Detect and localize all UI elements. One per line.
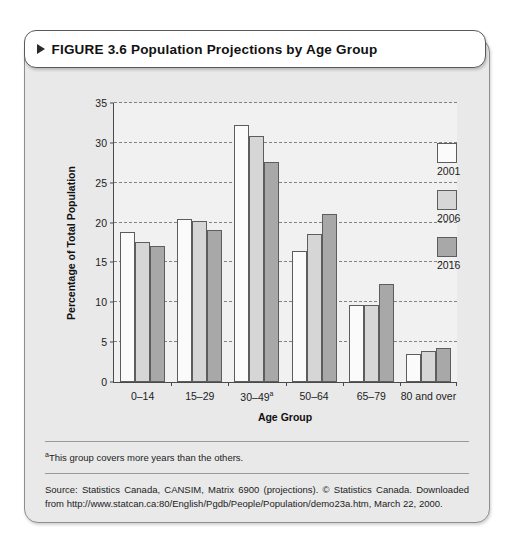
bar-group: 15–29 xyxy=(171,103,228,382)
y-axis-tick-label: 5 xyxy=(101,336,107,348)
footnote: aThis group covers more years than the o… xyxy=(45,451,469,463)
y-axis-tick-label: 0 xyxy=(101,376,107,388)
x-axis-tick-label: 0–14 xyxy=(131,390,154,402)
chart-legend: 200120062016 xyxy=(437,143,497,284)
x-axis-tick-mark xyxy=(343,382,344,386)
bar-2001-80-and-over[interactable] xyxy=(406,354,421,382)
bar-2001-50–64[interactable] xyxy=(292,251,307,382)
legend-swatch xyxy=(437,143,457,163)
plot-frame: 05101520253035 0–1415–2930–49a50–6465–79… xyxy=(113,103,457,383)
legend-item-2001[interactable]: 2001 xyxy=(437,143,497,177)
bar-group: 65–79 xyxy=(343,103,400,382)
bar-2001-15–29[interactable] xyxy=(177,219,192,382)
y-axis-tick-label: 20 xyxy=(95,217,107,229)
y-axis-tick-label: 25 xyxy=(95,177,107,189)
bar-2016-50–64[interactable] xyxy=(322,214,337,382)
source-divider xyxy=(45,473,469,474)
x-axis-tick-label: 30–49a xyxy=(240,390,273,403)
bar-2006-30–49[interactable] xyxy=(249,136,264,382)
bar-2016-65–79[interactable] xyxy=(379,284,394,382)
legend-label: 2001 xyxy=(437,165,497,177)
bar-2016-0–14[interactable] xyxy=(150,246,165,382)
legend-swatch xyxy=(437,237,457,257)
x-axis-tick-mark xyxy=(228,382,229,386)
bar-2001-65–79[interactable] xyxy=(349,305,364,382)
plot-area: 05101520253035 0–1415–2930–49a50–6465–79… xyxy=(113,103,457,383)
x-axis-tick-label: 15–29 xyxy=(185,390,214,402)
x-axis-tick-mark xyxy=(400,382,401,386)
bar-group: 30–49a xyxy=(228,103,285,382)
x-axis-tick-label: 50–64 xyxy=(299,390,328,402)
figure-notes: aThis group covers more years than the o… xyxy=(45,441,469,511)
legend-item-2016[interactable]: 2016 xyxy=(437,237,497,271)
note-divider xyxy=(45,441,469,442)
source-text: Source: Statistics Canada, CANSIM, Matri… xyxy=(45,483,469,511)
bar-2016-30–49[interactable] xyxy=(264,162,279,382)
y-axis-tick-label: 30 xyxy=(95,137,107,149)
x-axis-tick-mark xyxy=(286,382,287,386)
y-axis-tick-label: 35 xyxy=(95,97,107,109)
chart-area: Percentage of Total Population 051015202… xyxy=(25,81,489,441)
figure-title-band: FIGURE 3.6 Population Projections by Age… xyxy=(24,30,486,68)
x-axis-tick-footnote-marker: a xyxy=(270,390,274,397)
x-axis-tick-label: 80 and over xyxy=(401,390,456,402)
y-axis-tick-label: 15 xyxy=(95,256,107,268)
x-axis-label: Age Group xyxy=(113,411,457,423)
bar-2006-0–14[interactable] xyxy=(135,242,150,382)
y-axis-tick-label: 10 xyxy=(95,296,107,308)
bar-2006-80-and-over[interactable] xyxy=(421,351,436,382)
bar-2006-65–79[interactable] xyxy=(364,305,379,382)
legend-swatch xyxy=(437,190,457,210)
page-title: FIGURE 3.6 Population Projections by Age… xyxy=(52,42,378,57)
triangle-right-icon xyxy=(37,44,45,54)
y-axis-label: Percentage of Total Population xyxy=(63,103,79,383)
y-axis-label-text: Percentage of Total Population xyxy=(65,166,77,320)
bar-2001-0–14[interactable] xyxy=(120,232,135,382)
bar-2006-15–29[interactable] xyxy=(192,221,207,382)
x-axis-tick-label: 65–79 xyxy=(357,390,386,402)
bar-2006-50–64[interactable] xyxy=(307,234,322,382)
bar-2016-15–29[interactable] xyxy=(207,230,222,382)
bar-2016-80-and-over[interactable] xyxy=(436,348,451,382)
legend-label: 2006 xyxy=(437,212,497,224)
bars-layer: 0–1415–2930–49a50–6465–7980 and over xyxy=(114,103,457,382)
bar-2001-30–49[interactable] xyxy=(234,125,249,382)
bar-group: 0–14 xyxy=(114,103,171,382)
legend-item-2006[interactable]: 2006 xyxy=(437,190,497,224)
legend-label: 2016 xyxy=(437,259,497,271)
x-axis-tick-mark xyxy=(171,382,172,386)
x-axis-tick-mark xyxy=(456,382,457,386)
footnote-text: This group covers more years than the ot… xyxy=(49,452,243,463)
figure-card: FIGURE 3.6 Population Projections by Age… xyxy=(24,38,490,523)
bar-group: 50–64 xyxy=(286,103,343,382)
